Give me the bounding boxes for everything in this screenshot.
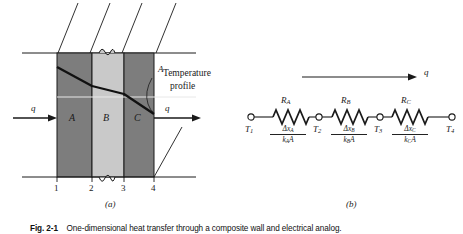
heat-flux-in-label: q: [31, 104, 36, 113]
resistor-b-symbol: [332, 110, 368, 124]
resistance-c-expression: ΔxC kCA: [392, 125, 428, 145]
interface-number-2: 2: [89, 184, 94, 193]
temperature-profile-label-line2: profile: [170, 82, 195, 92]
interface-number-1: 1: [54, 184, 59, 193]
panel-b-tag: (b): [346, 200, 357, 209]
circuit-flux-arrow: [302, 74, 417, 81]
node-label-t2: T2: [313, 125, 321, 135]
resistor-c-label: RC: [401, 96, 411, 106]
circuit-node-t3: [377, 114, 383, 120]
heat-flux-in-arrow: [13, 114, 57, 121]
node-label-t1: T1: [245, 125, 253, 135]
panel-a-tag: (a): [105, 200, 116, 209]
resistor-c-symbol: [392, 110, 428, 124]
resistor-a-label: RA: [281, 96, 290, 106]
wall-layer-c-label: C: [134, 113, 141, 123]
figure-caption: Fig. 2-1 One-dimensional heat transfer t…: [30, 224, 450, 233]
heat-flux-out-label: q: [165, 104, 170, 113]
circuit-node-t4: [449, 114, 455, 120]
heat-flux-out-arrow: [154, 114, 201, 121]
temperature-profile-label-line1: Temperature: [163, 69, 211, 79]
circuit-flux-label: q: [424, 68, 429, 77]
figure-number: Fig. 2-1: [30, 224, 58, 233]
figure-container: A B C A q q Temperature profile 1 2 3 4 …: [0, 0, 463, 234]
node-label-t3: T3: [374, 125, 382, 135]
node-label-t4: T4: [446, 125, 454, 135]
composite-wall-drawing: [0, 0, 240, 215]
interface-number-3: 3: [121, 184, 126, 193]
wall-layer-a-label: A: [69, 113, 75, 123]
hatch-lines: [58, 3, 176, 53]
circuit-node-t2: [316, 114, 322, 120]
interface-number-4: 4: [151, 184, 156, 193]
resistance-a-expression: ΔxA kAA: [270, 125, 306, 145]
resistor-b-label: RB: [341, 96, 350, 106]
hatch-line-bottom-right: [154, 127, 182, 177]
circuit-node-t1: [248, 114, 254, 120]
figure-caption-text: One-dimensional heat transfer through a …: [67, 224, 342, 233]
wall-layer-b-label: B: [103, 113, 109, 123]
resistance-b-expression: ΔxB kBA: [331, 125, 367, 145]
resistor-a-symbol: [273, 110, 309, 124]
